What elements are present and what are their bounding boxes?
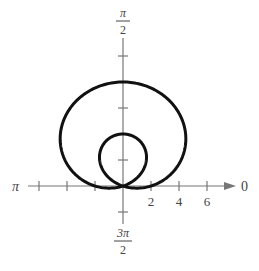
fraction-numerator: π <box>120 6 127 20</box>
r-tick-label: 6 <box>204 194 211 209</box>
fraction-numerator: 3π <box>116 226 130 240</box>
angle-label-pi-over-2: π 2 <box>116 6 130 37</box>
fraction-denominator: 2 <box>120 23 126 37</box>
angle-label-3pi-over-2: 3π 2 <box>114 226 132 257</box>
fraction-denominator: 2 <box>120 243 126 257</box>
polar-plot: 0 π π 2 3π 2 2 4 6 <box>0 0 259 271</box>
angle-label-pi: π <box>12 179 20 194</box>
arrow-head-icon <box>224 182 236 190</box>
r-tick-label: 2 <box>148 194 155 209</box>
angle-label-0: 0 <box>241 179 248 194</box>
r-tick-label: 4 <box>176 194 183 209</box>
